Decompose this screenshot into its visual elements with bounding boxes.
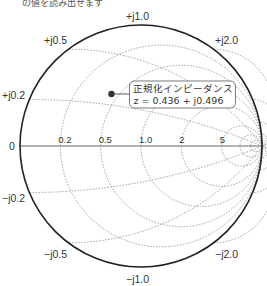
label-left-lower: −j0.2: [2, 192, 25, 204]
callout-title: 正規化インピーダンス: [133, 83, 233, 94]
axis-tick-label: 5: [220, 134, 225, 145]
label-left-upper: +j0.2: [2, 89, 25, 101]
axis-tick-label: 0.2: [58, 134, 71, 145]
axis-tick-label: 1.0: [139, 134, 152, 145]
smith-chart: の値を読み出せます 0.20.51.025 +j1.0 −j1.0 +j0.5 …: [0, 0, 267, 286]
axis-tick-label: 2: [179, 134, 184, 145]
label-zero: 0: [9, 140, 15, 152]
caption-text: の値を読み出せます: [22, 0, 103, 8]
label-bottom: −j1.0: [126, 273, 149, 285]
label-upper-left: +j0.5: [44, 34, 67, 46]
label-top: +j1.0: [126, 10, 149, 22]
reactance-arc: [29, 146, 262, 193]
axis-tick-label: 0.5: [99, 134, 112, 145]
label-lower-right: −j2.0: [215, 248, 238, 260]
impedance-callout: 正規化インピーダンス z = 0.436 + j0.496: [108, 81, 235, 108]
reactance-arc: [68, 146, 262, 243]
axis-tick-labels: 0.20.51.025: [58, 134, 225, 145]
impedance-marker: [108, 91, 114, 97]
label-upper-right: +j2.0: [215, 34, 238, 46]
reactance-arc: [141, 146, 262, 267]
callout-value: z = 0.436 + j0.496: [133, 95, 223, 106]
label-lower-left: −j0.5: [44, 248, 67, 260]
